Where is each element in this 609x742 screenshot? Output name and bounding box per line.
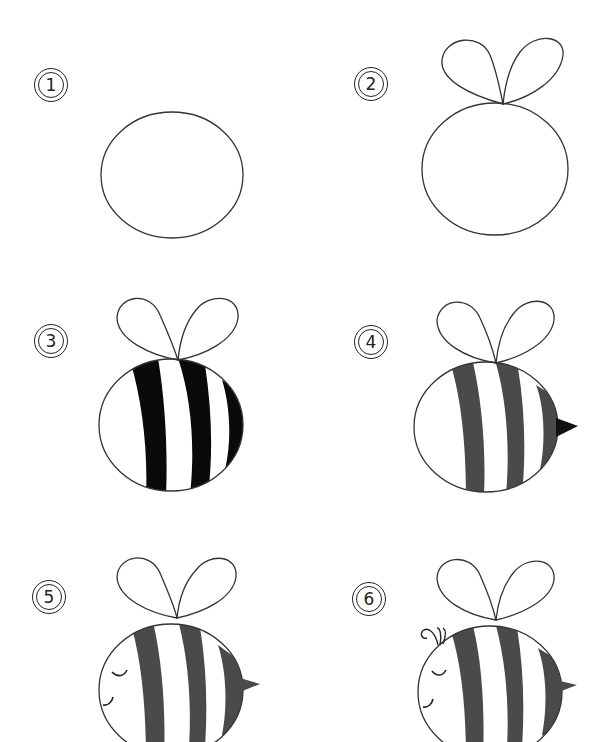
antenna [421, 629, 438, 645]
antenna [437, 628, 445, 645]
step-6-drawing [0, 0, 609, 742]
